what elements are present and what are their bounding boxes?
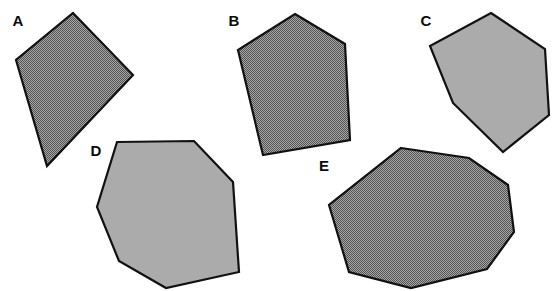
- shape-d-label: D: [91, 142, 102, 159]
- shape-e-label: E: [319, 157, 329, 174]
- shape-b-label: B: [229, 12, 240, 29]
- polygon-canvas: A B C D E: [0, 0, 552, 291]
- shape-a-label: A: [13, 12, 24, 29]
- shape-c-label: C: [421, 12, 432, 29]
- polygon-figure: A B C D E: [0, 0, 552, 291]
